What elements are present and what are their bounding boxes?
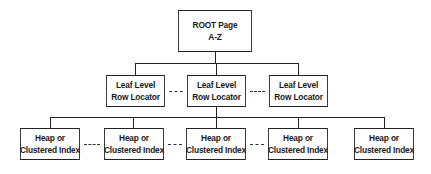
leaf-label-line2: Row Locator bbox=[111, 91, 160, 103]
sibling-link-dashed bbox=[250, 144, 264, 145]
sibling-link-dashed bbox=[168, 144, 182, 145]
heap-clustered-node: Heap or Clustered Index bbox=[20, 128, 80, 160]
data-label-line1: Heap or bbox=[35, 132, 65, 144]
data-label-line2: Clustered Index bbox=[20, 144, 80, 156]
leaf-label-line1: Leaf Level bbox=[197, 79, 236, 91]
leaf-label-line1: Leaf Level bbox=[116, 79, 155, 91]
sibling-link-dashed bbox=[84, 144, 100, 145]
leaf-level-node: Leaf Level Row Locator bbox=[187, 75, 246, 107]
connector-data-1 bbox=[50, 117, 51, 128]
connector-leaf-down bbox=[216, 107, 217, 117]
leaf-label-line1: Leaf Level bbox=[279, 79, 318, 91]
connector-leaf-3 bbox=[298, 63, 299, 75]
sibling-link-dashed bbox=[169, 91, 183, 92]
connector-data-bus bbox=[50, 117, 385, 118]
root-page-node: ROOT Page A-Z bbox=[178, 10, 252, 52]
connector-root-down bbox=[215, 52, 216, 63]
data-label-line1: Heap or bbox=[369, 132, 399, 144]
connector-leaf-1 bbox=[135, 63, 136, 75]
heap-clustered-node: Heap or Clustered Index bbox=[104, 128, 164, 160]
connector-data-3 bbox=[216, 117, 217, 128]
heap-clustered-node: Heap or Clustered Index bbox=[268, 128, 328, 160]
root-label-line2: A-Z bbox=[208, 31, 221, 43]
data-label-line2: Clustered Index bbox=[268, 144, 328, 156]
root-label-line1: ROOT Page bbox=[193, 19, 238, 31]
data-label-line1: Heap or bbox=[283, 132, 313, 144]
sibling-link-dashed bbox=[250, 91, 265, 92]
data-label-line1: Heap or bbox=[119, 132, 149, 144]
leaf-label-line2: Row Locator bbox=[192, 91, 241, 103]
leaf-label-line2: Row Locator bbox=[274, 91, 323, 103]
heap-clustered-node: Heap or Clustered Index bbox=[354, 128, 414, 160]
leaf-level-node: Leaf Level Row Locator bbox=[269, 75, 328, 107]
connector-data-5 bbox=[384, 117, 385, 128]
data-label-line2: Clustered Index bbox=[186, 144, 246, 156]
connector-leaf-2 bbox=[216, 63, 217, 75]
heap-clustered-node: Heap or Clustered Index bbox=[186, 128, 246, 160]
leaf-level-node: Leaf Level Row Locator bbox=[106, 75, 165, 107]
index-tree-diagram: ROOT Page A-Z Leaf Level Row Locator Lea… bbox=[0, 0, 431, 174]
data-label-line2: Clustered Index bbox=[104, 144, 164, 156]
data-label-line2: Clustered Index bbox=[354, 144, 414, 156]
data-label-line1: Heap or bbox=[201, 132, 231, 144]
connector-data-4 bbox=[298, 117, 299, 128]
connector-data-2 bbox=[133, 117, 134, 128]
